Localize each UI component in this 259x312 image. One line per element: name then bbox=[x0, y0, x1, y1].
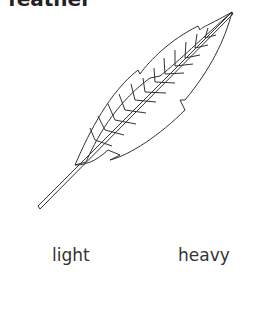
feather-icon bbox=[0, 0, 259, 230]
light-label: light bbox=[52, 245, 90, 265]
heavy-label: heavy bbox=[178, 245, 230, 265]
